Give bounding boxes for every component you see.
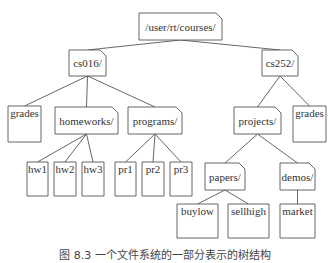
- node-label: demos/: [282, 171, 315, 183]
- node-label: hw3: [84, 163, 103, 175]
- node-label: cs252/: [266, 57, 296, 69]
- node-label: programs/: [133, 115, 179, 127]
- directory-node-cs252: cs252/: [262, 50, 298, 76]
- node-label: papers/: [209, 171, 242, 183]
- file-node-hw2: hw2: [54, 162, 76, 196]
- node-label: hw1: [28, 163, 47, 175]
- file-node-hw1: hw1: [27, 162, 48, 196]
- edge-homeworks-hw3: [87, 134, 94, 162]
- file-node-buylow: buylow: [177, 204, 218, 238]
- node-label: market: [282, 205, 313, 217]
- node-label: /user/rt/courses/: [145, 21, 216, 33]
- node-label: buylow: [181, 205, 214, 217]
- edge-homeworks-hw2: [65, 134, 87, 162]
- edge-papers-buylow: [198, 190, 226, 204]
- edge-projects-papers: [225, 134, 258, 163]
- node-label: sellhigh: [231, 205, 266, 217]
- edge-root-cs252: [181, 40, 281, 50]
- file-node-grades1: grades: [8, 106, 41, 142]
- edge-cs252-projects: [258, 76, 281, 107]
- directory-node-root: /user/rt/courses/: [139, 13, 222, 40]
- node-label: cs016/: [73, 57, 103, 69]
- tree-nodes: /user/rt/courses/cs016/cs252/gradeshomew…: [8, 13, 326, 238]
- file-node-sellhigh: sellhigh: [228, 204, 269, 238]
- edge-homeworks-hw1: [38, 134, 87, 162]
- edge-cs252-grades2: [280, 76, 310, 106]
- edge-programs-pr2: [153, 134, 155, 162]
- file-node-market: market: [280, 204, 315, 238]
- figure-caption: 图 8.3 一个文件系统的一部分表示的树结构: [0, 249, 330, 263]
- file-node-grades2: grades: [293, 106, 326, 142]
- file-node-pr2: pr2: [142, 162, 164, 196]
- directory-node-projects: projects/: [234, 107, 281, 134]
- directory-node-programs: programs/: [128, 107, 182, 134]
- file-node-hw3: hw3: [82, 162, 104, 196]
- edge-root-cs016: [88, 40, 181, 50]
- node-label: grades: [295, 107, 324, 119]
- file-node-pr1: pr1: [115, 162, 136, 196]
- edge-papers-sellhigh: [225, 190, 249, 204]
- node-label: grades: [10, 107, 39, 119]
- node-label: pr3: [174, 163, 189, 175]
- directory-node-homeworks: homeworks/: [55, 107, 118, 134]
- node-label: pr2: [146, 163, 161, 175]
- node-label: homeworks/: [59, 115, 114, 127]
- edge-cs016-grades1: [25, 76, 88, 106]
- directory-node-papers: papers/: [205, 163, 245, 190]
- directory-node-cs016: cs016/: [69, 50, 106, 76]
- edge-programs-pr3: [155, 134, 181, 162]
- directory-node-demos: demos/: [280, 163, 315, 190]
- file-node-pr3: pr3: [170, 162, 192, 196]
- edge-projects-demos: [258, 134, 298, 163]
- edge-cs016-homeworks: [87, 76, 88, 107]
- edge-cs016-programs: [88, 76, 156, 107]
- edge-programs-pr1: [126, 134, 156, 162]
- node-label: hw2: [56, 163, 75, 175]
- node-label: projects/: [239, 115, 278, 127]
- node-label: pr1: [118, 163, 133, 175]
